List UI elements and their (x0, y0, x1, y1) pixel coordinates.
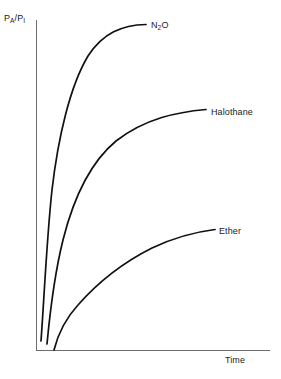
series-label-n2o: N2O (151, 21, 169, 30)
chart-canvas (0, 0, 281, 379)
anesthetic-uptake-figure: PA/PI Time N2O Halothane Ether (0, 0, 281, 379)
series-label-n2o-sub: 2 (158, 24, 162, 31)
series-label-n2o-o: O (161, 20, 168, 30)
x-axis-label: Time (225, 356, 245, 365)
curve-halothane (47, 110, 206, 345)
series-label-ether: Ether (219, 227, 241, 236)
curve-ether (54, 230, 215, 351)
y-axis-label-sub-a: A (10, 17, 15, 24)
series-label-n2o-n: N (151, 20, 158, 30)
series-label-halothane: Halothane (211, 108, 253, 117)
y-axis-label-sub-i: I (23, 17, 25, 24)
curve-n2o (41, 25, 146, 342)
y-axis-label: PA/PI (4, 14, 25, 23)
